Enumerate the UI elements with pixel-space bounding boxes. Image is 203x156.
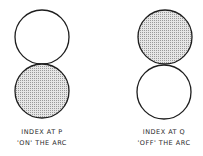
caption-line-1: INDEX AT Q (124, 127, 203, 138)
caption-index-at-p: INDEX AT P 'ON' THE ARC (2, 127, 82, 149)
top-circle-shaded (138, 10, 192, 64)
caption-line-1: INDEX AT P (2, 127, 82, 138)
panel-index-at-p (15, 10, 69, 118)
panel-index-at-q (137, 10, 192, 119)
caption-index-at-q: INDEX AT Q 'OFF' THE ARC (124, 127, 203, 149)
bottom-circle-clear (137, 65, 191, 119)
caption-line-2: 'OFF' THE ARC (124, 138, 203, 149)
bottom-circle-shaded (15, 64, 69, 118)
caption-line-2: 'ON' THE ARC (2, 138, 82, 149)
top-circle-clear (15, 10, 69, 64)
